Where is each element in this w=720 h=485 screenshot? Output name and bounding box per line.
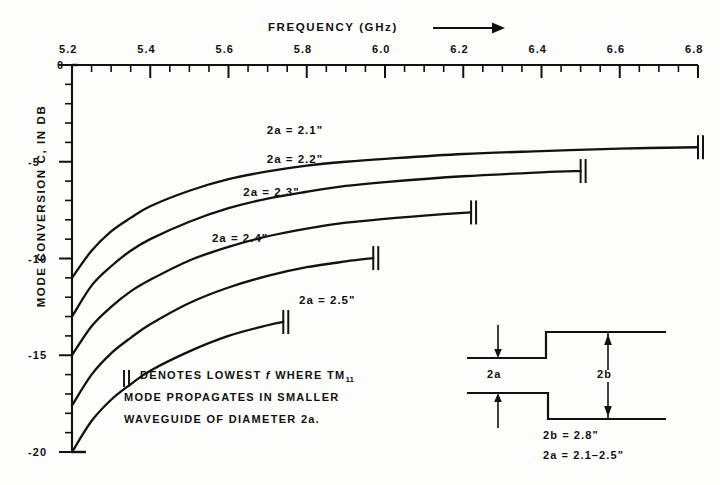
curve-end-marker: [698, 135, 703, 159]
inset-caption-2a: 2a = 2.1–2.5": [543, 450, 624, 461]
curve-end-marker: [283, 310, 288, 334]
x-tick-label: 6.2: [450, 44, 469, 55]
x-tick-label: 6.0: [372, 44, 391, 55]
curve-group: [72, 147, 698, 452]
x-axis-title: FREQUENCY (GHz): [268, 22, 398, 34]
note-line-1: DENOTES LOWEST f WHERE TM11: [140, 370, 354, 384]
curve-end-marker: [581, 159, 586, 183]
inset-label-2b: 2b: [597, 369, 612, 380]
x-tick-label: 6.8: [685, 44, 704, 55]
curve-end-marker: [373, 246, 378, 270]
y-tick-label: -5: [28, 157, 40, 168]
note-line-3: WAVEGUIDE OF DIAMETER 2a.: [124, 414, 320, 425]
note-double-bar-icon: [124, 370, 129, 387]
curve-line: [72, 147, 698, 278]
chart-canvas: [0, 0, 720, 485]
y-tick-group: [59, 65, 72, 452]
origin-label: 0: [57, 60, 64, 71]
inset-label-2a: 2a: [487, 369, 501, 380]
x-tick-label: 6.6: [607, 44, 626, 55]
note-line-2: MODE PROPAGATES IN SMALLER: [124, 392, 340, 403]
x-tick-label: 5.8: [294, 44, 313, 55]
y-tick-label: -20: [28, 447, 47, 458]
inset-caption-2b: 2b = 2.8": [543, 430, 599, 441]
curve-label: 2a = 2.4": [212, 233, 268, 245]
curve-line: [72, 212, 471, 355]
x-tick-label: 5.2: [59, 44, 78, 55]
note-line1-text-a: DENOTES LOWEST: [140, 369, 266, 381]
curve-label: 2a = 2.1": [267, 125, 323, 137]
note-line1-text-b: WHERE TM: [271, 369, 346, 381]
x-tick-label: 6.4: [529, 44, 548, 55]
curve-line: [72, 322, 283, 452]
curve-label: 2a = 2.5": [299, 295, 355, 307]
x-tick-label: 5.4: [137, 44, 156, 55]
note-line1-subscript: 11: [345, 375, 353, 384]
x-tick-group: [72, 65, 698, 78]
x-tick-label: 5.6: [216, 44, 235, 55]
curve-label: 2a = 2.2": [267, 154, 323, 166]
y-tick-label: -15: [28, 350, 47, 361]
y-tick-label: -10: [28, 254, 47, 265]
y-axis-title: MODE CONVERSION C, IN DB: [35, 91, 47, 321]
mode-conversion-figure: FREQUENCY (GHz) MODE CONVERSION C, IN DB…: [0, 0, 720, 485]
curve-label: 2a = 2.3": [243, 187, 299, 199]
curve-end-marker: [471, 200, 476, 224]
frequency-arrow-icon: [433, 23, 505, 34]
